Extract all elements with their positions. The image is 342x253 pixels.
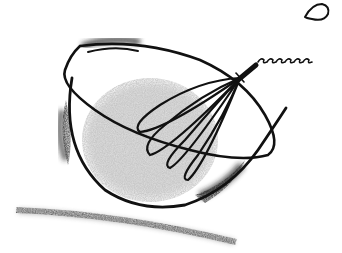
whisk-spring-handle: [258, 59, 312, 63]
ground-stroke: [16, 210, 236, 242]
whisk-bowl-illustration: [0, 0, 342, 253]
illustration-canvas: whisk in a mixing bowl: [0, 0, 342, 253]
whisk-end-loop: [305, 4, 328, 20]
